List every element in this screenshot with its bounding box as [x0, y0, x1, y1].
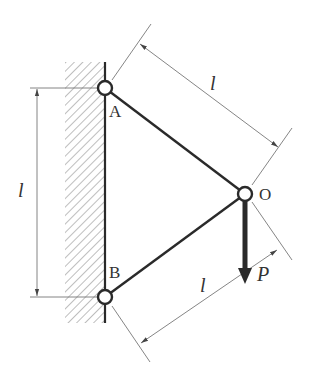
- member-ao: [105, 88, 245, 194]
- joint-a-label: A: [109, 102, 122, 121]
- dimension-bo-label: l: [200, 274, 206, 296]
- member-bo: [105, 194, 245, 297]
- joint-a-pin: [98, 81, 112, 95]
- wall-support: [65, 62, 105, 323]
- load-arrow-p: P: [238, 200, 269, 285]
- arrow-down-icon: [238, 268, 252, 284]
- joint-b-pin: [98, 290, 112, 304]
- truss-diagram: l l l P A B O: [0, 0, 315, 382]
- wall-hatch: [65, 62, 104, 323]
- joint-b-label: B: [109, 263, 120, 282]
- dimension-ab-label: l: [18, 179, 24, 201]
- joint-o-pin: [238, 187, 252, 201]
- joint-o-label: O: [259, 185, 271, 204]
- dimension-ao-label: l: [210, 72, 216, 94]
- load-label: P: [256, 263, 269, 285]
